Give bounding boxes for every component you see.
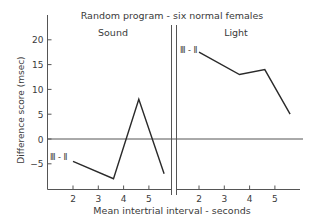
x-tick-label: 3 bbox=[95, 194, 101, 204]
y-tick-label: −5 bbox=[30, 159, 43, 169]
x-axis-label: Mean intertrial interval - seconds bbox=[93, 205, 250, 216]
light-series-line bbox=[199, 52, 290, 114]
y-tick-label: 15 bbox=[32, 60, 43, 70]
panel-label-light: Light bbox=[224, 27, 248, 38]
x-tick-label: 4 bbox=[247, 194, 253, 204]
x-tick-label: 5 bbox=[272, 194, 278, 204]
series-label-light: Ⅲ - Ⅱ bbox=[180, 46, 197, 55]
y-tick-label: 20 bbox=[32, 35, 44, 45]
y-tick-label: 0 bbox=[38, 135, 44, 145]
y-tick-label: 5 bbox=[38, 110, 44, 120]
panel-label-sound: Sound bbox=[98, 27, 128, 38]
y-axis-label: Difference score (msec) bbox=[16, 56, 26, 163]
chart: Random program - six normal females Soun… bbox=[0, 0, 311, 223]
x-tick-label: 5 bbox=[146, 194, 152, 204]
x-axis: 23452345 bbox=[48, 186, 301, 204]
x-tick-label: 4 bbox=[121, 194, 127, 204]
x-tick-label: 2 bbox=[196, 194, 202, 204]
y-axis: −505101520 bbox=[30, 15, 51, 190]
chart-title: Random program - six normal females bbox=[81, 10, 264, 21]
x-tick-label: 3 bbox=[221, 194, 227, 204]
y-tick-label: 10 bbox=[32, 85, 44, 95]
series-label-sound: Ⅲ - Ⅱ bbox=[50, 153, 67, 162]
x-tick-label: 2 bbox=[70, 194, 76, 204]
